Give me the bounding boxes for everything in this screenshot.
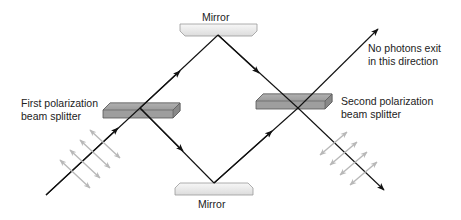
input-polarization-arrows-icon	[60, 130, 120, 188]
first-beam-splitter	[103, 103, 180, 118]
top-mirror	[180, 24, 257, 36]
second-beam-splitter	[256, 94, 332, 109]
first-splitter-label-line2: beam splitter	[21, 110, 81, 122]
second-splitter-label-line1: Second polarization	[341, 95, 433, 107]
no-photons-label-line1: No photons exit	[368, 42, 441, 54]
beam-paths	[46, 29, 384, 195]
second-splitter-label-line2: beam splitter	[341, 108, 401, 120]
bottom-mirror	[175, 183, 253, 195]
mirror-top-label: Mirror	[202, 11, 229, 23]
mirror-bottom-label: Mirror	[198, 198, 225, 210]
first-splitter-label-line1: First polarization	[21, 97, 98, 109]
no-photons-label-line2: in this direction	[368, 55, 438, 67]
output-polarization-arrows-icon	[320, 132, 377, 185]
